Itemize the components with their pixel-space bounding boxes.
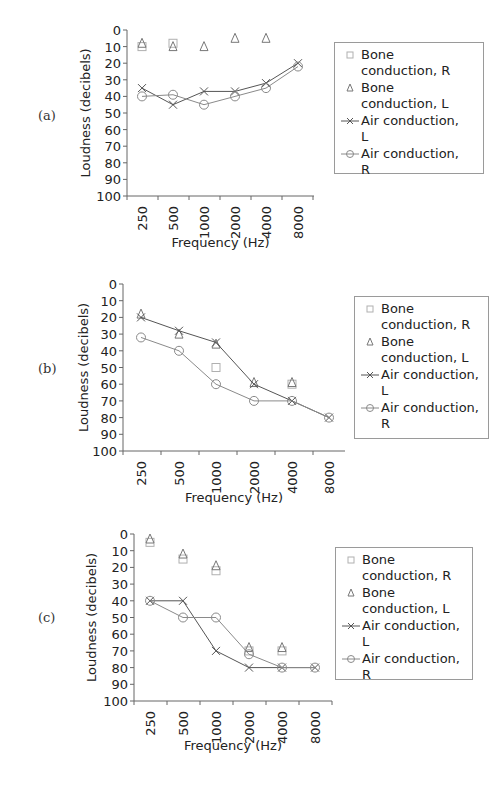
legend-label: conduction, L xyxy=(381,350,482,366)
legend-label: R xyxy=(362,667,466,683)
circle-marker xyxy=(179,613,188,622)
legend-item: Air conduction,L xyxy=(339,113,477,145)
y-tick-label: 20 xyxy=(111,560,128,575)
y-tick-label: 80 xyxy=(104,156,121,171)
circle-marker xyxy=(348,656,355,663)
legend-label: conduction, R xyxy=(362,568,466,584)
legend-label: Air conduction, xyxy=(362,651,466,667)
x-tick-label: 8000 xyxy=(308,711,323,744)
series-air-conduction-r xyxy=(146,596,320,672)
circle-marker xyxy=(212,380,221,389)
x-marker xyxy=(169,101,177,109)
legend-item: Boneconduction, L xyxy=(339,80,477,112)
legend-item: Air conduction,R xyxy=(339,146,477,178)
y-tick-label: 20 xyxy=(104,56,121,71)
legend-item: Boneconduction, L xyxy=(340,585,466,617)
y-tick-label: 60 xyxy=(111,627,128,642)
y-tick-label: 50 xyxy=(111,611,128,626)
panel-label: (c) xyxy=(38,610,55,625)
legend-label: conduction, L xyxy=(361,96,477,112)
legend-label: conduction, L xyxy=(362,601,466,617)
circle-marker xyxy=(245,650,254,659)
y-tick-label: 80 xyxy=(100,411,117,426)
circle-marker xyxy=(347,151,354,158)
x-axis-title: Frequency (Hz) xyxy=(185,490,283,505)
triangle-marker xyxy=(347,84,353,91)
x-tick-label: 250 xyxy=(143,711,158,736)
series-bone-conduction-l xyxy=(146,534,286,652)
y-tick-label: 30 xyxy=(111,577,128,592)
circle-marker-icon xyxy=(339,146,361,162)
circle-marker-icon xyxy=(340,651,362,667)
legend-label: conduction, R xyxy=(361,63,477,79)
x-marker-icon xyxy=(359,367,381,383)
x-tick-label: 8000 xyxy=(322,461,337,494)
legend-item: Air conduction,R xyxy=(359,400,482,432)
legend-item: Boneconduction, L xyxy=(359,334,482,366)
legend: Boneconduction, RBoneconduction, LAir co… xyxy=(354,296,489,439)
legend-label: R xyxy=(381,416,482,432)
y-tick-label: 40 xyxy=(111,594,128,609)
y-tick-label: 10 xyxy=(111,544,128,559)
y-tick-label: 10 xyxy=(104,40,121,55)
y-tick-label: 100 xyxy=(92,444,117,459)
legend-item: Air conduction,R xyxy=(340,651,466,683)
chart-panel-a: (a)0102030405060708090100250500100020004… xyxy=(38,23,314,250)
y-axis-title: Loudness (decibels) xyxy=(78,48,93,177)
square-marker xyxy=(347,52,353,58)
x-tick-label: 500 xyxy=(172,461,187,486)
x-marker xyxy=(137,313,145,321)
legend-label: Air conduction, xyxy=(361,113,477,129)
chart-panel-b: (b)0102030405060708090100250500100020004… xyxy=(38,277,345,505)
x-marker-icon xyxy=(339,113,361,129)
circle-marker xyxy=(175,346,184,355)
triangle-marker xyxy=(179,549,187,558)
triangle-marker xyxy=(288,378,296,387)
y-tick-label: 0 xyxy=(120,527,128,542)
x-marker xyxy=(138,84,146,92)
panel-label: (a) xyxy=(38,108,56,123)
triangle-marker xyxy=(200,42,208,51)
y-tick-label: 30 xyxy=(104,73,121,88)
triangle-marker xyxy=(231,33,239,42)
y-tick-label: 90 xyxy=(100,427,117,442)
y-tick-label: 0 xyxy=(109,277,117,292)
square-marker-icon xyxy=(340,552,362,568)
x-tick-label: 250 xyxy=(134,461,149,486)
series-air-conduction-r xyxy=(137,333,334,422)
legend-label: Air conduction, xyxy=(361,146,477,162)
legend-label: R xyxy=(361,162,477,178)
triangle-marker-icon xyxy=(340,585,362,601)
circle-marker xyxy=(294,62,303,71)
legend-item: Boneconduction, R xyxy=(339,47,477,79)
legend-label: Bone xyxy=(381,301,482,317)
series-air-conduction-l xyxy=(146,597,319,672)
circle-marker xyxy=(262,84,271,93)
legend-item: Air conduction,L xyxy=(359,367,482,399)
y-tick-label: 100 xyxy=(96,189,121,204)
circle-marker xyxy=(250,396,259,405)
x-tick-label: 8000 xyxy=(291,206,306,239)
triangle-marker xyxy=(348,589,354,596)
triangle-marker xyxy=(169,42,177,51)
legend-label: Bone xyxy=(362,585,466,601)
circle-marker xyxy=(200,100,209,109)
legend-label: L xyxy=(381,383,482,399)
legend-label: Bone xyxy=(361,80,477,96)
legend-label: Bone xyxy=(362,552,466,568)
y-axis-title: Loudness (decibels) xyxy=(76,303,91,432)
legend-label: conduction, R xyxy=(381,317,482,333)
circle-marker xyxy=(325,413,334,422)
series-air-conduction-l xyxy=(138,59,302,108)
x-marker xyxy=(212,647,220,655)
square-marker-icon xyxy=(359,301,381,317)
y-tick-label: 40 xyxy=(100,344,117,359)
series-air-conduction-r xyxy=(138,62,303,109)
series-bone-conduction-r xyxy=(146,538,286,655)
legend-item: Boneconduction, R xyxy=(359,301,482,333)
y-tick-label: 90 xyxy=(104,172,121,187)
legend-item: Boneconduction, R xyxy=(340,552,466,584)
y-tick-label: 80 xyxy=(111,661,128,676)
x-tick-label: 4000 xyxy=(285,461,300,494)
y-tick-label: 100 xyxy=(103,694,128,709)
